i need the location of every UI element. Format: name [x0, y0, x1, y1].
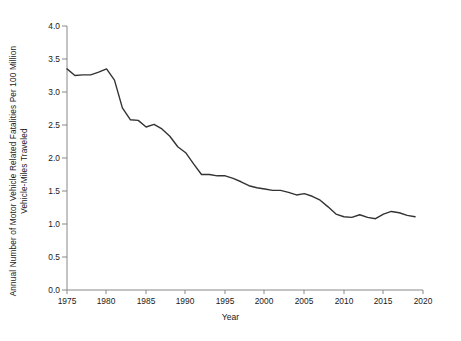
x-axis-ticks [67, 290, 423, 294]
x-tick-label: 2000 [244, 296, 284, 306]
plot-area [0, 0, 461, 341]
x-axis-title: Year [0, 312, 461, 322]
x-tick-label: 1995 [205, 296, 245, 306]
x-tick-label: 1975 [47, 296, 87, 306]
x-tick-label: 2020 [403, 296, 443, 306]
x-tick-label: 2010 [324, 296, 364, 306]
x-tick-label: 2005 [284, 296, 324, 306]
axis-lines [67, 26, 423, 290]
y-axis-ticks [62, 26, 67, 290]
x-tick-label: 1990 [165, 296, 205, 306]
x-tick-label: 1985 [126, 296, 166, 306]
data-series-line [67, 69, 415, 219]
x-tick-label: 2015 [363, 296, 403, 306]
x-axis-tick-labels: 1975 1980 1985 1990 1995 2000 2005 2010 … [0, 296, 461, 310]
x-tick-label: 1980 [86, 296, 126, 306]
chart-figure: Annual Number of Motor Vehicle Related F… [0, 0, 461, 341]
